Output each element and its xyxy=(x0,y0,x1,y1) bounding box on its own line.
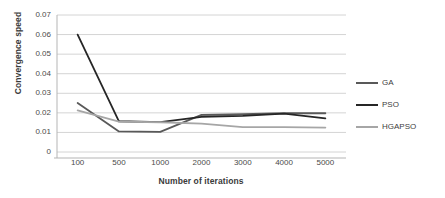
x-axis-tick-label: 5000 xyxy=(304,158,346,167)
series-lines xyxy=(78,35,326,132)
series-line-pso xyxy=(78,35,326,122)
legend-swatch-pso-icon xyxy=(356,104,378,106)
x-axis-tick-label: 4000 xyxy=(263,158,305,167)
legend-item-label: GA xyxy=(382,78,394,87)
x-axis-title: Number of iterations xyxy=(55,176,347,186)
legend-item-pso[interactable]: PSO xyxy=(356,100,399,109)
legend-item-hgapso[interactable]: HGAPSO xyxy=(356,122,416,131)
axis-lines xyxy=(54,15,346,158)
x-axis-tick-label: 3000 xyxy=(222,158,264,167)
legend-item-ga[interactable]: GA xyxy=(356,78,394,87)
plot-area xyxy=(0,0,445,198)
legend-swatch-hgapso-icon xyxy=(356,126,378,128)
legend-item-label: HGAPSO xyxy=(382,122,416,131)
x-axis-tick-label: 500 xyxy=(98,158,140,167)
x-axis-tick-label: 1000 xyxy=(139,158,181,167)
convergence-speed-line-chart: Convergence speed 0.070.060.050.040.030.… xyxy=(0,0,445,198)
x-axis-tick-label: 2000 xyxy=(181,158,223,167)
x-axis-tick-label: 100 xyxy=(57,158,99,167)
legend-swatch-ga-icon xyxy=(356,82,378,84)
legend-item-label: PSO xyxy=(382,100,399,109)
